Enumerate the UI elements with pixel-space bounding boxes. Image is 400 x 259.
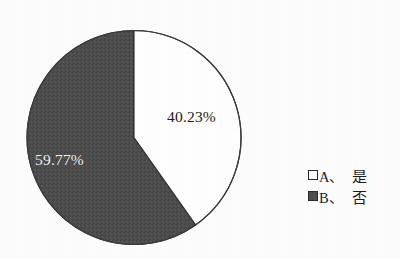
chart-page: 40.23% 59.77% A、 是 B、 否 <box>0 0 400 259</box>
legend-item-a-key: A、 <box>319 165 343 186</box>
legend-item-b-key: B、 <box>319 186 343 207</box>
legend-swatch-b-icon <box>308 191 318 201</box>
chart-legend: A、 是 B、 否 <box>308 166 367 205</box>
legend-swatch-a-icon <box>308 170 318 180</box>
legend-item-b-label: 否 <box>352 186 367 207</box>
legend-item-b[interactable]: B、 否 <box>308 187 367 205</box>
pie-chart-svg <box>0 0 280 259</box>
pie-chart: 40.23% 59.77% <box>0 0 280 259</box>
pie-slice-a-value-label: 40.23% <box>167 108 216 126</box>
legend-item-a-label: 是 <box>352 165 367 186</box>
legend-item-a[interactable]: A、 是 <box>308 166 367 184</box>
pie-slice-b-value-label: 59.77% <box>35 151 84 169</box>
